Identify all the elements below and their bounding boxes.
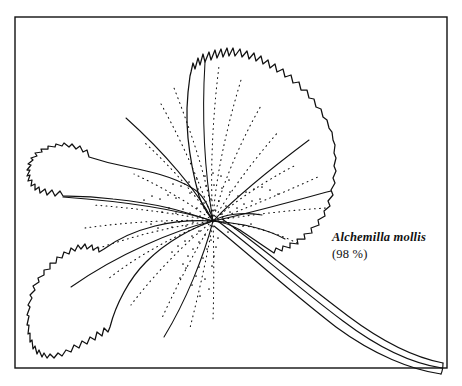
species-percentage: (98 %) <box>332 246 426 263</box>
botanical-figure: .ink { fill: none; stroke: #111111; stro… <box>0 0 462 386</box>
species-name: Alchemilla mollis <box>332 229 426 246</box>
leaf-illustration: .ink { fill: none; stroke: #111111; stro… <box>0 0 462 386</box>
species-label: Alchemilla mollis (98 %) <box>332 229 426 263</box>
figure-background <box>0 0 462 386</box>
